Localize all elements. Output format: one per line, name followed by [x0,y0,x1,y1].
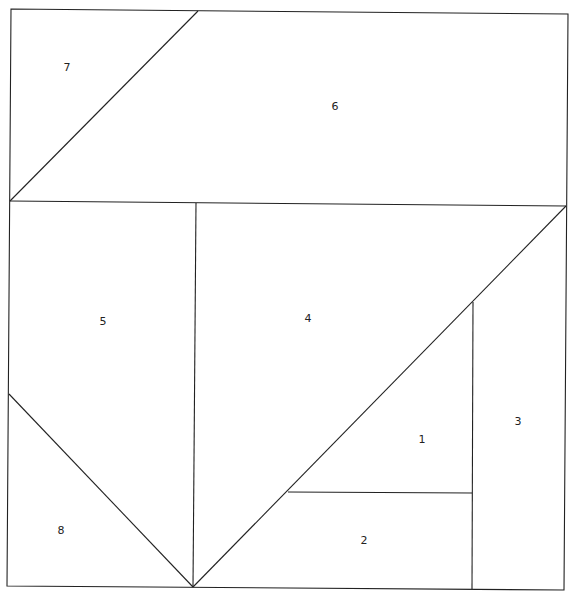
diagonal-5-8 [9,394,193,587]
piece-label-2: 2 [361,534,368,547]
piece-label-5: 5 [100,315,107,328]
piece-label-8: 8 [58,524,65,537]
piece-label-4: 4 [305,312,312,325]
outer-border [7,9,568,590]
piece-label-6: 6 [332,100,339,113]
horizontal-divider-1-2 [288,492,472,493]
piece-label-7: 7 [64,61,71,74]
vertical-divider-5-4 [193,203,196,587]
horizontal-divider-top [10,201,566,206]
quilt-diagram: 1 2 3 4 5 6 7 8 [0,0,573,594]
diagonal-4 [193,206,566,587]
diagonal-7-6 [10,11,198,201]
piece-label-3: 3 [515,415,522,428]
vertical-divider-3 [472,302,473,589]
piece-label-1: 1 [419,433,426,446]
